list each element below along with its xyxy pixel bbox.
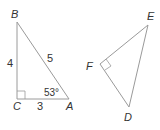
side-label-ab: 5 <box>47 52 53 64</box>
angle-label-a: 53° <box>44 87 59 98</box>
vertex-label-f: F <box>86 60 94 72</box>
vertex-label-d: D <box>124 111 132 123</box>
triangle-def: E F D <box>86 10 155 123</box>
triangle-abc-outline <box>17 22 69 99</box>
right-angle-marker-f <box>105 59 111 70</box>
vertex-label-a: A <box>65 100 73 112</box>
vertex-label-b: B <box>11 8 18 20</box>
geometry-figure: B C A 4 5 3 53° E F D <box>0 0 160 130</box>
side-label-ca: 3 <box>37 100 43 112</box>
triangle-def-outline <box>100 25 148 107</box>
vertex-label-c: C <box>13 100 21 112</box>
side-label-bc: 4 <box>7 57 13 69</box>
right-angle-marker-c <box>17 91 25 99</box>
triangle-abc: B C A 4 5 3 53° <box>7 8 73 112</box>
vertex-label-e: E <box>147 10 155 22</box>
